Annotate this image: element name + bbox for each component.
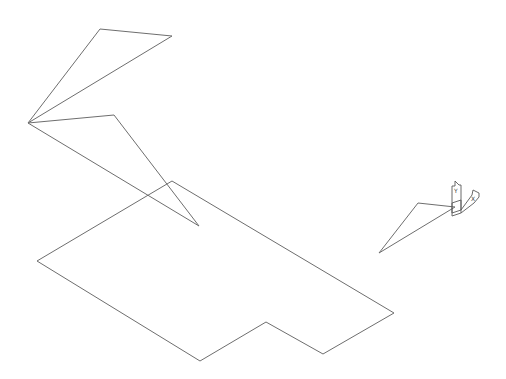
ucs-y-label: Y — [453, 187, 458, 194]
drawing-canvas[interactable]: Y X — [0, 0, 506, 379]
ucs-x-label: X — [471, 195, 475, 202]
ucs-icon: Y X — [452, 181, 479, 216]
small-triangle[interactable] — [379, 203, 455, 253]
middle-triangle[interactable] — [28, 115, 199, 226]
floor-polygon[interactable] — [37, 181, 394, 361]
upper-triangle[interactable] — [28, 29, 172, 123]
